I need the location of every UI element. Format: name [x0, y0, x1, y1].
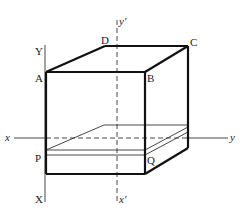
- label-C: C: [190, 36, 197, 48]
- label-x: x: [4, 131, 10, 143]
- edge-AD: [46, 46, 105, 72]
- label-x-prime: x': [118, 193, 127, 205]
- label-y-prime: y': [118, 15, 127, 27]
- label-Y: Y: [35, 45, 43, 57]
- label-P: P: [35, 152, 41, 164]
- label-B: B: [147, 72, 154, 84]
- label-y: y: [229, 131, 235, 143]
- label-Q: Q: [147, 154, 155, 166]
- layer-left-slant: [46, 125, 104, 150]
- label-D: D: [101, 34, 109, 46]
- layer-right-slant-top: [145, 127, 188, 150]
- label-A: A: [35, 72, 43, 84]
- box-diagram: Y D y' C A B x y P Q X x': [0, 0, 246, 212]
- edge-CB: [145, 46, 188, 72]
- label-X: X: [35, 193, 43, 205]
